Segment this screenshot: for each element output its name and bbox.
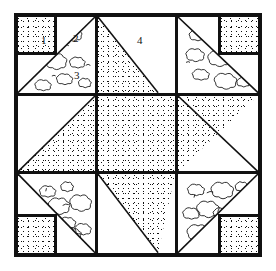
dotted-triangle-upper xyxy=(98,174,175,253)
dotted-square-bottom-right xyxy=(218,214,258,253)
cell-middle-right xyxy=(178,96,258,175)
cell-center xyxy=(98,96,178,175)
dotted-square-bottom-left xyxy=(18,214,57,253)
dotted-triangle-upper xyxy=(178,96,258,172)
patch-label-1: 1 xyxy=(41,35,47,46)
dotted-square-full xyxy=(98,96,175,172)
block-outer-frame xyxy=(14,13,262,257)
block-grid xyxy=(18,17,258,253)
cell-top-right xyxy=(178,17,258,96)
dotted-triangle-lower xyxy=(18,96,95,172)
patch-label-2: 2 xyxy=(73,33,79,44)
cell-top-middle xyxy=(98,17,178,96)
quilt-block-diagram: 1 2 3 4 xyxy=(0,0,276,271)
dotted-square-top-left xyxy=(18,17,57,55)
dotted-square-top-right xyxy=(218,17,258,55)
cell-middle-left xyxy=(18,96,98,175)
cell-bottom-left xyxy=(18,174,98,253)
patch-label-4: 4 xyxy=(137,35,143,46)
cell-bottom-right xyxy=(178,174,258,253)
patch-label-3: 3 xyxy=(74,70,80,81)
cell-bottom-middle xyxy=(98,174,178,253)
dotted-triangle-left xyxy=(98,17,175,93)
cell-top-left xyxy=(18,17,98,96)
